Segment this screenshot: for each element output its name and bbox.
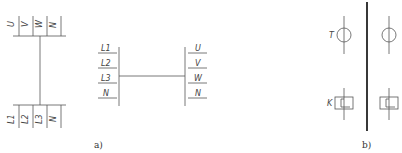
left-terminal-label: N <box>103 89 109 98</box>
top-terminal-label: V <box>21 21 30 27</box>
symbol-label: T <box>329 31 335 40</box>
bottom-terminal-label: L2 <box>21 114 30 124</box>
right-terminal-label: V <box>195 59 201 68</box>
right-terminal-label: W <box>194 74 203 83</box>
top-terminal-label: N <box>49 22 58 28</box>
caption-a: a) <box>94 140 103 150</box>
bottom-terminal-label: L3 <box>35 114 44 124</box>
right-terminal-label: N <box>195 89 201 98</box>
box-terminal-icon <box>380 88 398 120</box>
box-terminal-icon <box>335 88 353 120</box>
caption-b: b) <box>362 140 371 150</box>
circle-terminal-icon <box>337 16 351 54</box>
bottom-terminal-label: L1 <box>7 114 16 124</box>
left-terminal-label: L3 <box>101 74 111 83</box>
top-terminal-label: U <box>7 21 16 27</box>
diagram-canvas: U V W N L1 L2 L3 N L1 L2 L3 N U <box>0 0 402 153</box>
horizontal-terminal-block: L1 L2 L3 N U V W N <box>98 44 207 106</box>
vertical-terminal-block: U V W N L1 L2 L3 N <box>7 16 66 128</box>
circle-terminal-icon <box>382 16 396 54</box>
bottom-terminal-label: N <box>49 116 58 122</box>
left-terminal-label: L1 <box>101 44 111 53</box>
right-terminal-label: U <box>195 44 201 53</box>
terminal-symbols: T K <box>327 2 398 131</box>
left-terminal-label: L2 <box>101 59 111 68</box>
symbol-label: K <box>327 99 333 108</box>
top-terminal-label: W <box>35 19 44 28</box>
